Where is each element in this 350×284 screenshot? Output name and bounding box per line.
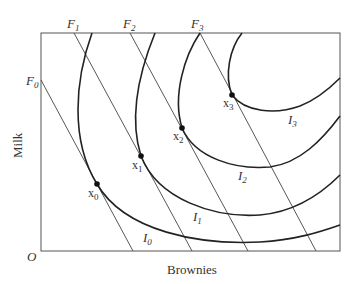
label-i2: I2 [237, 168, 247, 185]
point-x1 [138, 153, 144, 159]
point-x0 [94, 181, 100, 187]
label-f0: F0 [25, 73, 39, 90]
point-x2 [179, 125, 185, 131]
indifference-curve-i3 [228, 33, 340, 111]
x-axis-label: Brownies [167, 262, 217, 277]
label-i1: I1 [192, 209, 202, 226]
label-f2: F2 [122, 16, 136, 33]
label-x2: x2 [173, 129, 184, 145]
diagram-canvas: F0 F1 F2 F3 I0 I1 I2 I3 x0 x1 x2 x3 O Br… [0, 0, 350, 284]
label-i0: I0 [142, 230, 152, 247]
point-x3 [229, 92, 235, 98]
indifference-curve-i1 [135, 33, 340, 215]
budget-line-f3 [200, 33, 316, 251]
origin-label: O [27, 249, 37, 264]
indifference-curve-i0 [78, 33, 340, 242]
label-f1: F1 [66, 16, 79, 33]
label-i3: I3 [287, 112, 297, 129]
label-x3: x3 [223, 96, 234, 112]
budget-line-f2 [130, 33, 248, 251]
label-x1: x1 [132, 158, 143, 174]
label-f3: F3 [190, 16, 204, 33]
indifference-curve-i2 [178, 33, 340, 167]
y-axis-label: Milk [10, 132, 25, 158]
label-x0: x0 [88, 186, 99, 202]
